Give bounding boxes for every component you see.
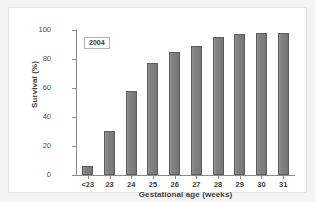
x-axis-tick [88, 176, 89, 179]
figure: 020406080100 <23232425262728293031 Survi… [0, 0, 315, 202]
y-axis-tick [72, 117, 76, 118]
x-axis-tick-label: 29 [228, 180, 252, 189]
chart-panel: 020406080100 <23232425262728293031 Survi… [8, 7, 307, 193]
x-axis-tick [240, 176, 241, 179]
x-axis-tick-label: 25 [141, 180, 165, 189]
x-axis-tick [131, 176, 132, 179]
x-axis-tick-label: 24 [119, 180, 143, 189]
y-axis-tick-label: 100 [11, 26, 51, 34]
bar [104, 131, 115, 175]
bar [169, 52, 180, 175]
x-axis-tick [153, 176, 154, 179]
x-axis-tick-label: 26 [163, 180, 187, 189]
x-axis-tick-label: <23 [76, 180, 100, 189]
x-axis-tick [110, 176, 111, 179]
x-axis-tick [283, 176, 284, 179]
y-axis-title: Survival (%) [30, 40, 39, 130]
x-axis-tick [218, 176, 219, 179]
y-axis-tick [72, 146, 76, 147]
x-axis-tick-label: 23 [98, 180, 122, 189]
bar [234, 34, 245, 175]
x-axis-tick-label: 27 [184, 180, 208, 189]
x-axis-tick-label: 30 [249, 180, 273, 189]
y-axis-tick-label: 20 [11, 142, 51, 150]
bar [256, 33, 267, 175]
x-axis-tick-label: 31 [271, 180, 295, 189]
x-axis-tick-label: 28 [206, 180, 230, 189]
bar [213, 37, 224, 175]
year-annotation-label: 2004 [84, 37, 110, 49]
bar [147, 63, 158, 175]
x-axis-tick [261, 176, 262, 179]
y-axis-tick-label: 0 [11, 171, 51, 179]
bar [126, 91, 137, 175]
bar [191, 46, 202, 175]
x-axis-tick [196, 176, 197, 179]
bar [278, 33, 289, 175]
bar [82, 166, 93, 175]
x-axis-title: Gestational age (weeks) [77, 190, 294, 199]
y-axis-tick [72, 30, 76, 31]
y-axis-tick [72, 175, 76, 176]
y-axis-tick [72, 88, 76, 89]
x-axis-tick [175, 176, 176, 179]
y-axis-tick [72, 59, 76, 60]
